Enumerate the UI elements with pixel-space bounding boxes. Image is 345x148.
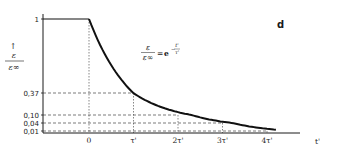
x-tick-label: τ' xyxy=(130,136,136,145)
y-tick-label: 0,01 xyxy=(23,128,39,136)
formula: ε ε∞ = e − t' τ' xyxy=(141,42,180,62)
decay-chart: 10,370,100,040,01 0τ'2τ'3τ'4τ' d t' ↑ ε … xyxy=(0,0,345,148)
y-axis-label: ↑ ε ε∞ xyxy=(5,42,24,72)
x-tick-label: 3τ' xyxy=(217,136,228,145)
decay-curve xyxy=(89,19,276,130)
y-axis-denominator: ε∞ xyxy=(9,63,20,72)
x-tick-label: 2τ' xyxy=(173,136,184,145)
x-tick-label: 0 xyxy=(87,136,92,145)
y-tick-label: 1 xyxy=(35,16,39,24)
formula-eq: = xyxy=(157,49,163,58)
formula-lhs-den: ε∞ xyxy=(143,53,153,62)
formula-exp-num: t' xyxy=(175,42,178,48)
x-tick-label: 4τ' xyxy=(262,136,273,145)
formula-exp-den: τ' xyxy=(175,49,179,55)
y-axis-arrow: ↑ xyxy=(10,42,17,51)
formula-lhs-num: ε xyxy=(146,43,150,52)
y-tick-label: 0,04 xyxy=(23,120,39,128)
y-tick-label: 0,10 xyxy=(23,112,39,120)
y-axis-numerator: ε xyxy=(12,51,16,60)
y-tick-label: 0,37 xyxy=(23,90,39,98)
formula-base: e xyxy=(164,49,169,58)
x-axis-label: t' xyxy=(315,137,320,146)
panel-label: d xyxy=(277,19,284,30)
